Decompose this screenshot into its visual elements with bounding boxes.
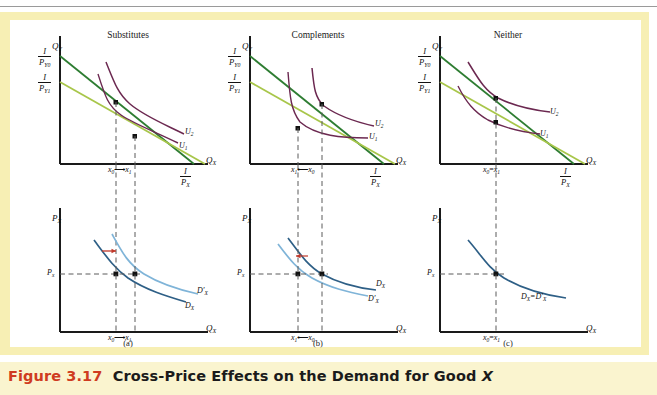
panel-c-y-intercept-high: IPY0 (418, 47, 431, 68)
panel-c-x-axis-label: QX (586, 156, 596, 166)
panel-c-bottom-x-markers: x0=x1 (483, 334, 500, 343)
panel-b-graphics (218, 12, 418, 355)
panel-b-demand-label-new: D′X (368, 295, 379, 304)
panel-b-price-label: Px (237, 269, 244, 278)
panel-a-graphics (28, 12, 228, 355)
panel-a-y-axis-label: QY (52, 42, 62, 52)
panel-c-price-label: Px (427, 269, 434, 278)
panel-a-y-intercept-low: IPY1 (38, 73, 51, 94)
panel-c-graphics (408, 12, 608, 355)
panel-c-y-axis-label: QY (432, 42, 442, 52)
panel-b-y-intercept-high: IPY0 (228, 47, 241, 68)
panel-c-bottom-x-axis-label: QX (586, 324, 596, 334)
panel-a-demand-label-initial: DX (185, 302, 194, 311)
figure-title: Cross-Price Effects on the Demand for Go… (113, 368, 482, 384)
panel-c-curve-label-u2: U2 (550, 108, 559, 117)
figure-page: Substitutes (a) (0, 0, 657, 395)
panel-a-curve-label-u2: U2 (185, 128, 194, 137)
panel-a-price-label: Px (47, 269, 54, 278)
panel-b-bottom-x-axis-label: QX (396, 324, 406, 334)
panel-b-curve-label-u1: U1 (369, 133, 378, 142)
panel-c-curve-label-u1: U1 (540, 130, 549, 139)
panel-b-bottom-y-axis-label: PX (242, 214, 251, 224)
panel-b-x-intercept: IPX (370, 167, 381, 188)
panel-b-bottom-x-markers: x1⟵x0 (291, 334, 315, 343)
panel-c-bottom-y-axis-label: PX (432, 214, 441, 224)
figure-title-good: X (482, 368, 493, 384)
panel-c-x-intercept: IPX (560, 167, 571, 188)
panel-a-bottom-x-markers: x0⟶x1 (108, 334, 132, 343)
panels-container: Substitutes (a) (0, 12, 649, 355)
panel-a-x-intercept: IPX (180, 167, 191, 188)
panel-b-x-axis-label: QX (396, 156, 406, 166)
panel-a-substitutes: Substitutes (a) (28, 12, 228, 355)
figure-number: Figure 3.17 (8, 368, 103, 384)
panel-a-curve-label-u1: U1 (179, 142, 188, 151)
panel-b-top-x-markers: x1⟵x0 (291, 166, 315, 175)
panel-a-top-x-markers: x0⟶x1 (108, 166, 132, 175)
panel-b-y-axis-label: QY (242, 42, 252, 52)
panel-a-x-axis-label: QX (206, 156, 216, 166)
panel-a-demand-label-new: D′X (197, 287, 208, 296)
panel-c-demand-label-combined: DX=D′X (521, 293, 546, 302)
panel-b-curve-label-u2: U2 (375, 120, 384, 129)
panel-a-bottom-y-axis-label: PX (52, 214, 61, 224)
caption-spacer (103, 368, 113, 384)
panel-b-y-intercept-low: IPY1 (228, 73, 241, 94)
panel-c-y-intercept-low: IPY1 (418, 73, 431, 94)
panel-a-bottom-x-axis-label: QX (206, 324, 216, 334)
panel-b-demand-label-initial: DX (376, 280, 385, 289)
figure-caption: Figure 3.17 Cross-Price Effects on the D… (8, 368, 493, 384)
panel-a-y-intercept-high: IPY0 (38, 47, 51, 68)
panel-c-neither: Neither (c) (408, 12, 608, 355)
panel-b-complements: Complements (b) (218, 12, 418, 355)
top-divider-rule (0, 6, 657, 7)
panel-c-top-x-markers: x0=x1 (483, 166, 500, 175)
